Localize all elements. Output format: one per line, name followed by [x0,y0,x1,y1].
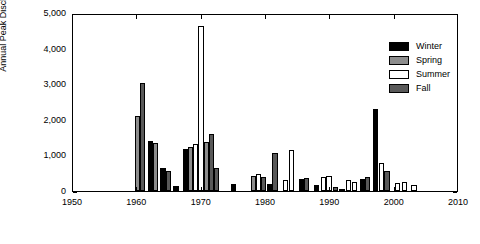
legend-item: Spring [389,53,450,67]
bar [411,185,416,191]
bar [314,185,319,191]
bar [153,143,158,191]
y-tick-label: 2,000 [6,116,66,125]
x-tick-mark [394,187,395,191]
bar [304,178,309,191]
x-tick-mark [265,187,266,191]
y-tick-mark-right [453,192,457,193]
x-tick-mark [329,187,330,191]
legend-item: Summer [389,67,450,81]
x-tick-mark [136,187,137,191]
bar [365,177,370,191]
x-tick-mark [201,187,202,191]
chart-container: Annual Peak Discharge (ft³/s) 01,0002,00… [0,0,480,244]
y-tick-label: 3,000 [6,80,66,89]
bar [373,109,378,191]
y-tick-label: 5,000 [6,9,66,18]
bar [173,186,178,191]
bar [339,189,344,191]
plot-area: WinterSpringSummerFall [72,14,458,192]
legend-label: Spring [416,56,442,65]
x-tick-mark-top [265,15,266,19]
x-tick-label: 1990 [309,197,349,207]
x-tick-mark-top [394,15,395,19]
x-tick-label: 1980 [245,197,285,207]
legend-label: Winter [416,42,442,51]
x-tick-label: 1950 [52,197,92,207]
legend-swatch [389,84,409,93]
bar [283,180,288,191]
x-tick-mark-top [329,15,330,19]
x-tick-mark-top [201,15,202,19]
x-tick-mark-top [136,15,137,19]
bar [289,150,294,191]
bar [395,183,400,191]
bar [214,168,219,191]
y-tick-label: 1,000 [6,151,66,160]
legend-swatch [389,70,409,79]
legend-item: Fall [389,81,450,95]
y-tick-label: 0 [6,187,66,196]
x-tick-label: 2000 [374,197,414,207]
x-tick-label: 1960 [116,197,156,207]
bar [140,83,145,191]
x-tick-label: 2010 [438,197,478,207]
y-tick-label: 4,000 [6,45,66,54]
legend-item: Winter [389,39,450,53]
bar [384,171,389,191]
legend-label: Summer [416,70,450,79]
bar [272,153,277,191]
bar [231,184,236,191]
bar [166,171,171,191]
bar [333,187,338,191]
y-tick-mark [73,192,77,193]
legend-swatch [389,56,409,65]
legend-label: Fall [416,84,431,93]
x-tick-label: 1970 [181,197,221,207]
bar [352,182,357,191]
legend: WinterSpringSummerFall [389,39,450,95]
bar [402,182,407,191]
legend-swatch [389,42,409,51]
bar [346,180,351,191]
